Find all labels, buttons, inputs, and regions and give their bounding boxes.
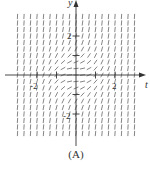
slope-segment bbox=[17, 53, 18, 58]
slope-segment bbox=[56, 33, 57, 38]
slope-segment bbox=[121, 66, 122, 71]
slope-segment bbox=[43, 124, 44, 129]
slope-segment bbox=[121, 92, 122, 97]
slope-segment bbox=[82, 33, 83, 38]
slope-segment bbox=[82, 118, 83, 123]
slope-segment bbox=[55, 67, 58, 71]
slope-segment bbox=[63, 27, 64, 32]
slope-segment bbox=[102, 33, 103, 38]
slope-segment bbox=[108, 111, 109, 116]
y-axis-label: y bbox=[67, 0, 73, 8]
slope-segment bbox=[24, 85, 25, 90]
slope-segment bbox=[101, 86, 103, 91]
slope-segment bbox=[55, 60, 58, 64]
slope-segment bbox=[82, 14, 83, 19]
slope-segment bbox=[37, 111, 38, 116]
slope-segment bbox=[128, 92, 129, 97]
slope-segment bbox=[43, 46, 44, 51]
slope-segment bbox=[80, 87, 85, 90]
slope-segment bbox=[108, 92, 109, 97]
slope-segment bbox=[82, 131, 83, 136]
slope-segment bbox=[56, 20, 57, 25]
slope-segment bbox=[95, 99, 97, 104]
slope-segment bbox=[115, 98, 116, 103]
slope-segment bbox=[108, 33, 109, 38]
slope-segment bbox=[30, 40, 31, 45]
slope-segment bbox=[69, 105, 71, 110]
slope-segment bbox=[55, 86, 58, 90]
slope-segment bbox=[37, 46, 38, 51]
slope-segment bbox=[128, 53, 129, 58]
slope-segment bbox=[114, 53, 115, 58]
slope-segment bbox=[94, 86, 97, 90]
slope-segment bbox=[24, 59, 25, 64]
slope-segment bbox=[82, 105, 84, 110]
slope-segment bbox=[50, 111, 51, 116]
slope-segment bbox=[69, 20, 70, 25]
x-tick-label-2: 2 bbox=[112, 81, 117, 91]
slope-segment bbox=[95, 14, 96, 19]
slope-segment bbox=[36, 66, 37, 71]
slope-segment bbox=[63, 20, 64, 25]
slope-segment bbox=[108, 53, 109, 58]
slope-segment bbox=[88, 47, 90, 52]
slope-segment bbox=[55, 92, 57, 97]
slope-segment bbox=[56, 99, 58, 104]
slope-segment bbox=[56, 40, 57, 45]
slope-segment bbox=[68, 47, 70, 52]
t-axis-arrow-icon bbox=[139, 73, 146, 78]
slope-segment bbox=[88, 105, 90, 110]
slope-segment bbox=[49, 92, 51, 97]
slope-segment bbox=[43, 98, 44, 103]
slope-segment bbox=[108, 66, 110, 71]
slope-segment bbox=[43, 40, 44, 45]
slope-segment bbox=[121, 40, 122, 45]
slope-segment bbox=[49, 86, 51, 91]
slope-segment bbox=[56, 47, 58, 52]
slope-segment bbox=[50, 27, 51, 32]
slope-segment bbox=[62, 33, 63, 38]
slope-segment bbox=[30, 53, 31, 58]
slope-segment bbox=[49, 47, 50, 52]
slope-segment bbox=[49, 105, 50, 110]
slope-segment bbox=[17, 79, 18, 84]
slope-segment bbox=[121, 98, 122, 103]
t-axis-label: t bbox=[145, 79, 148, 90]
slope-segment bbox=[121, 79, 122, 84]
slope-segment bbox=[67, 81, 72, 82]
slope-segment bbox=[67, 61, 72, 64]
slope-segment bbox=[24, 53, 25, 58]
slope-segment bbox=[134, 66, 135, 71]
slope-segment bbox=[115, 46, 116, 51]
slope-segment bbox=[108, 46, 109, 51]
slope-segment bbox=[82, 27, 83, 32]
slope-segment bbox=[115, 111, 116, 116]
slope-segment bbox=[43, 86, 45, 91]
slope-segment bbox=[108, 98, 109, 103]
slope-segment bbox=[108, 86, 110, 91]
slope-segment bbox=[95, 131, 96, 136]
slope-segment bbox=[56, 111, 57, 116]
slope-segment bbox=[80, 81, 85, 82]
slope-segment bbox=[134, 79, 135, 84]
slope-segment bbox=[43, 118, 44, 123]
slope-segment bbox=[108, 118, 109, 123]
slope-segment bbox=[88, 92, 91, 96]
slope-segment bbox=[30, 46, 31, 51]
slope-segment bbox=[101, 92, 103, 97]
slope-segment bbox=[114, 66, 115, 71]
slope-segment bbox=[17, 85, 18, 90]
slope-segment bbox=[95, 124, 96, 129]
slope-segment bbox=[37, 33, 38, 38]
slope-segment bbox=[82, 124, 83, 129]
slope-segment bbox=[50, 118, 51, 123]
slope-segment bbox=[89, 20, 90, 25]
slope-segment bbox=[24, 79, 25, 84]
slope-segment bbox=[43, 105, 44, 110]
slope-segment bbox=[128, 98, 129, 103]
slope-segment bbox=[121, 59, 122, 64]
slope-segment bbox=[89, 118, 90, 123]
slope-segment bbox=[36, 92, 37, 97]
slope-segment bbox=[68, 99, 70, 104]
slope-segment bbox=[43, 27, 44, 32]
